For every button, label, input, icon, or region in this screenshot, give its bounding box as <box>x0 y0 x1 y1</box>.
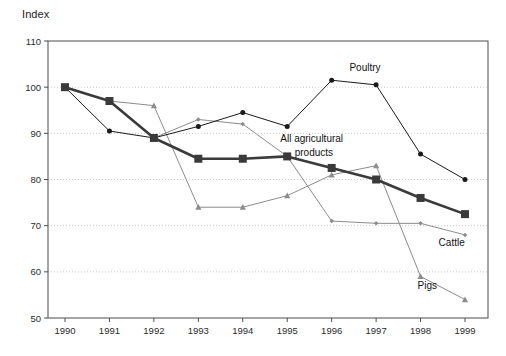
x-tick-label: 1997 <box>366 325 387 336</box>
x-tick-label: 1991 <box>99 325 120 336</box>
data-point-marker <box>105 97 113 105</box>
x-tick-label: 1992 <box>143 325 164 336</box>
data-point-marker <box>194 155 202 163</box>
series-line <box>65 80 465 179</box>
data-point-marker <box>107 129 112 134</box>
series-annotation-label: products <box>295 147 333 158</box>
series-annotation-label: Poultry <box>349 62 380 73</box>
chart-figure: Index 1101009080706050 19901991199219931… <box>0 0 506 356</box>
data-point-marker <box>284 193 290 199</box>
data-point-marker <box>196 117 201 122</box>
data-point-marker <box>418 152 423 157</box>
x-tick-label: 1993 <box>188 325 209 336</box>
y-tick-label: 70 <box>30 220 41 231</box>
data-point-marker <box>328 164 336 172</box>
line-chart-plot: 1101009080706050 19901991199219931994199… <box>0 0 506 356</box>
y-tick-label: 110 <box>26 36 41 47</box>
data-point-marker <box>240 110 245 115</box>
y-tick-label: 100 <box>25 82 41 93</box>
data-point-marker <box>150 134 158 142</box>
data-point-marker <box>285 124 290 129</box>
series-annotation-label: Cattle <box>439 237 466 248</box>
x-tick-label: 1998 <box>410 325 431 336</box>
y-tick-label: 80 <box>30 174 41 185</box>
data-point-marker <box>417 273 423 279</box>
data-point-marker <box>372 176 380 184</box>
x-axis-ticks: 1990199119921993199419951996199719981999 <box>54 318 475 336</box>
data-point-marker <box>418 221 423 226</box>
series-lines <box>65 80 465 299</box>
data-point-marker <box>329 78 334 83</box>
data-point-marker <box>462 296 468 302</box>
data-point-marker <box>373 163 379 169</box>
y-tick-label: 60 <box>30 266 41 277</box>
series-line <box>65 87 465 235</box>
x-tick-label: 1995 <box>277 325 298 336</box>
x-tick-label: 1990 <box>54 325 75 336</box>
series-line <box>65 87 465 214</box>
series-annotation-label: Pigs <box>417 280 436 291</box>
grid-lines <box>48 87 488 272</box>
data-point-marker <box>196 124 201 129</box>
data-point-marker <box>61 83 69 91</box>
series-annotation-label: All agricultural <box>280 133 343 144</box>
data-point-marker <box>239 155 247 163</box>
data-point-marker <box>374 82 379 87</box>
x-tick-label: 1999 <box>454 325 475 336</box>
y-tick-label: 90 <box>30 128 41 139</box>
data-point-marker <box>283 152 291 160</box>
data-point-marker <box>374 221 379 226</box>
y-axis-ticks: 1101009080706050 <box>25 36 48 324</box>
x-tick-label: 1994 <box>232 325 253 336</box>
x-tick-label: 1996 <box>321 325 342 336</box>
data-point-marker <box>463 177 468 182</box>
y-tick-label: 50 <box>30 313 41 324</box>
data-point-marker <box>417 194 425 202</box>
data-point-marker <box>461 210 469 218</box>
